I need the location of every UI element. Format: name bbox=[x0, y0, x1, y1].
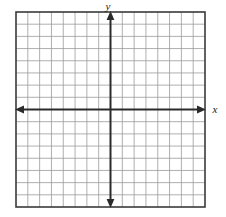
x-axis-label: x bbox=[212, 103, 218, 115]
coordinate-grid-figure: y x bbox=[0, 0, 226, 217]
y-axis-label: y bbox=[105, 0, 111, 12]
coordinate-plane: y x bbox=[0, 0, 226, 217]
